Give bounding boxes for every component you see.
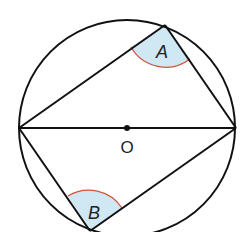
circle-diagram: O A B [0,0,248,232]
diagram-canvas: O A B [0,0,248,232]
chord-b-to-right [90,128,236,231]
chord-a-to-right [165,25,236,128]
angle-b-label: B [88,203,100,223]
center-point [124,125,130,131]
angle-a-label: A [155,42,168,62]
center-label: O [120,138,133,157]
chord-left-to-a [19,25,165,128]
chord-left-to-b [19,128,90,231]
